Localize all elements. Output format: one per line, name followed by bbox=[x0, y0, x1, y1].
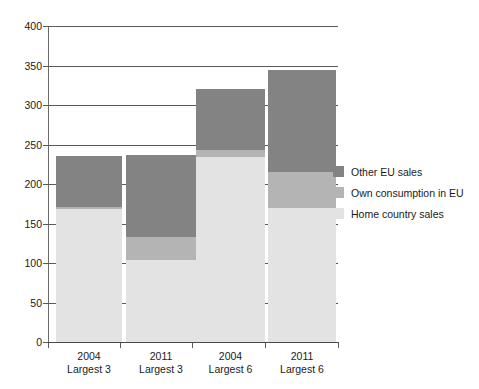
legend-swatch-icon bbox=[333, 187, 344, 198]
bar-segment-own-consumption-in-eu[interactable] bbox=[56, 207, 122, 209]
y-tick-label: 250 bbox=[2, 140, 42, 150]
y-tick-label-wrap: 50 bbox=[0, 298, 42, 308]
bar-segment-home-country-sales[interactable] bbox=[196, 157, 265, 342]
y-tick-label-wrap: 400 bbox=[0, 21, 42, 31]
y-tick-label: 350 bbox=[2, 61, 42, 71]
x-tick-mark-2 bbox=[192, 343, 193, 348]
stacked-bar-chart: 400350300250200150100500 2004Largest 320… bbox=[0, 0, 479, 389]
x-axis-label-group: Largest 6 bbox=[258, 363, 346, 376]
bar-segment-home-country-sales[interactable] bbox=[56, 209, 122, 342]
x-axis-label-year: 2011 bbox=[258, 350, 346, 363]
y-tick-label-wrap: 350 bbox=[0, 61, 42, 71]
legend-item-other-eu-sales[interactable]: Other EU sales bbox=[333, 163, 477, 180]
bar-2011-largest-6[interactable] bbox=[268, 26, 336, 342]
legend-item-own-consumption-in-eu[interactable]: Own consumption in EU bbox=[333, 184, 477, 201]
bar-2004-largest-6[interactable] bbox=[196, 26, 265, 342]
bar-segment-other-eu-sales[interactable] bbox=[268, 70, 336, 172]
legend-label: Other EU sales bbox=[351, 166, 422, 178]
bar-segment-own-consumption-in-eu[interactable] bbox=[126, 237, 196, 260]
bar-segment-home-country-sales[interactable] bbox=[268, 208, 336, 342]
y-tick-label-wrap: 100 bbox=[0, 258, 42, 268]
y-tick-label-wrap: 150 bbox=[0, 219, 42, 229]
bar-2004-largest-3[interactable] bbox=[56, 26, 122, 342]
legend-swatch-icon bbox=[333, 166, 344, 177]
bar-segment-own-consumption-in-eu[interactable] bbox=[268, 172, 336, 208]
y-tick-label: 150 bbox=[2, 219, 42, 229]
bar-segment-home-country-sales[interactable] bbox=[126, 260, 196, 342]
x-tick-mark-0 bbox=[48, 343, 49, 348]
chart-legend: Other EU salesOwn consumption in EUHome … bbox=[333, 163, 477, 226]
y-tick-label: 50 bbox=[2, 298, 42, 308]
y-tick-label: 300 bbox=[2, 100, 42, 110]
y-tick-label: 100 bbox=[2, 258, 42, 268]
bar-segment-other-eu-sales[interactable] bbox=[56, 156, 122, 207]
x-tick-mark-1 bbox=[120, 343, 121, 348]
legend-label: Own consumption in EU bbox=[351, 187, 464, 199]
y-tick-label-wrap: 200 bbox=[0, 179, 42, 189]
y-tick-label-wrap: 300 bbox=[0, 100, 42, 110]
bar-segment-other-eu-sales[interactable] bbox=[126, 155, 196, 237]
x-axis-label-3: 2011Largest 6 bbox=[258, 350, 346, 376]
legend-item-home-country-sales[interactable]: Home country sales bbox=[333, 205, 477, 222]
bar-2011-largest-3[interactable] bbox=[126, 26, 196, 342]
x-tick-mark-4 bbox=[338, 343, 339, 348]
legend-swatch-icon bbox=[333, 208, 344, 219]
legend-label: Home country sales bbox=[351, 208, 444, 220]
y-tick-label: 200 bbox=[2, 179, 42, 189]
y-tick-label: 0 bbox=[2, 337, 42, 347]
x-tick-mark-3 bbox=[265, 343, 266, 348]
bar-segment-other-eu-sales[interactable] bbox=[196, 89, 265, 150]
x-axis-line bbox=[48, 342, 339, 343]
plot-area bbox=[48, 26, 338, 342]
y-tick-label-wrap: 0 bbox=[0, 337, 42, 347]
bar-segment-own-consumption-in-eu[interactable] bbox=[196, 150, 265, 157]
y-tick-label: 400 bbox=[2, 21, 42, 31]
y-tick-label-wrap: 250 bbox=[0, 140, 42, 150]
